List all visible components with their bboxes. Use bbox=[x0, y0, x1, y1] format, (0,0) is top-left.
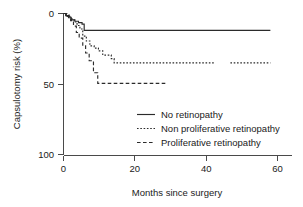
x-tick-label-60: 60 bbox=[272, 163, 283, 174]
legend-label-proliferative-retinopathy: Proliferative retinopathy bbox=[161, 137, 261, 148]
curve-non-proliferative-retinopathy bbox=[64, 14, 271, 63]
x-tick-label-20: 20 bbox=[130, 163, 141, 174]
capsulotomy-risk-chart: 0 50 100 Capsulotomy risk (%) 0 20 40 60… bbox=[0, 0, 303, 207]
y-tick-label-100: 100 bbox=[38, 149, 54, 160]
y-axis-title: Capsulotomy risk (%) bbox=[11, 39, 22, 129]
legend: No retinopathy Non proliferative retinop… bbox=[137, 109, 280, 148]
curve-no-retinopathy bbox=[64, 14, 271, 31]
legend-label-no-retinopathy: No retinopathy bbox=[161, 109, 223, 120]
x-axis-title: Months since surgery bbox=[132, 187, 223, 198]
y-tick-label-50: 50 bbox=[43, 79, 54, 90]
legend-label-non-proliferative-retinopathy: Non proliferative retinopathy bbox=[161, 123, 280, 134]
series-group bbox=[64, 14, 271, 84]
x-tick-label-40: 40 bbox=[201, 163, 212, 174]
chart-svg: 0 50 100 Capsulotomy risk (%) 0 20 40 60… bbox=[0, 0, 303, 207]
x-tick-label-0: 0 bbox=[61, 163, 66, 174]
y-tick-label-0: 0 bbox=[49, 8, 54, 19]
curve-proliferative-retinopathy bbox=[64, 14, 167, 84]
